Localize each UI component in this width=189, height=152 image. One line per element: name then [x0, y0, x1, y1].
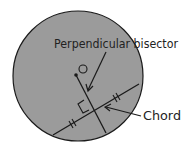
circle — [13, 11, 143, 141]
perpendicular-bisector-label: Perpendicular bisector — [54, 36, 179, 51]
circle-diagram: Perpendicular bisector Chord — [0, 0, 189, 152]
chord-label: Chord — [143, 108, 181, 123]
bisector-endpoint-dot — [74, 73, 78, 77]
